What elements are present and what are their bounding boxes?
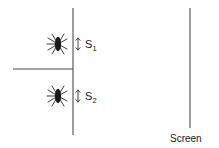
slit-width-indicator-s2 <box>76 90 80 102</box>
slit-label-s2-subscript: 2 <box>93 96 97 105</box>
slit-marker-s1 <box>47 34 67 54</box>
slit-marker-s2 <box>47 86 67 106</box>
screen-label: Screen <box>170 133 202 144</box>
slit-label-s2: S <box>85 90 92 102</box>
slit-width-indicator-s1 <box>76 38 80 50</box>
starburst-core <box>55 37 61 51</box>
slit-label-s1: S <box>85 38 92 50</box>
slit-label-s1-subscript: 1 <box>93 44 97 53</box>
starburst-core <box>55 89 61 103</box>
figure-canvas: S 1 S 2 <box>0 0 219 148</box>
double-slit-figure: S 1 S 2 <box>0 0 219 148</box>
